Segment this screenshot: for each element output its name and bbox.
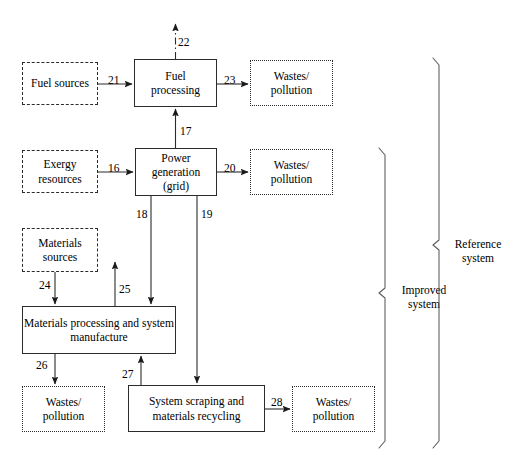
box-materials-processing: Materials processing and systemmanufactu… — [22, 306, 176, 354]
bracket-label-reference-system: Referencesystem — [444, 237, 512, 265]
flow-label-23: 23 — [224, 74, 236, 86]
box-wastes-pollution-mid: Wastes/pollution — [250, 149, 333, 195]
box-fuel-sources: Fuel sources — [22, 62, 98, 105]
flow-label-26: 26 — [36, 359, 48, 371]
flow-label-21: 21 — [108, 74, 120, 86]
bracket-reference-system — [433, 58, 439, 448]
box-wastes-pollution-bottom-right: Wastes/pollution — [292, 386, 375, 432]
flow-label-20: 20 — [224, 162, 236, 174]
box-wastes-pollution-top: Wastes/pollution — [250, 60, 333, 106]
flow-label-16: 16 — [108, 162, 120, 174]
box-fuel-processing: Fuelprocessing — [134, 59, 217, 107]
flow-label-25: 25 — [119, 283, 131, 295]
flow-label-24: 24 — [39, 279, 51, 291]
bracket-label-improved-system: Improvedsystem — [391, 283, 457, 311]
flow-label-28: 28 — [271, 396, 283, 408]
box-system-scraping: System scraping andmaterials recycling — [128, 385, 265, 432]
flow-label-19: 19 — [201, 208, 213, 220]
flow-label-22: 22 — [178, 36, 190, 48]
box-materials-sources: Materialssources — [22, 228, 98, 272]
flow-label-17: 17 — [180, 125, 192, 137]
flow-label-27: 27 — [122, 368, 134, 380]
box-exergy-resources: Exergyresources — [22, 150, 98, 193]
diagram-canvas: Fuel sources Fuelprocessing Wastes/pollu… — [0, 0, 517, 455]
box-power-generation: Powergeneration(grid) — [135, 148, 217, 196]
flow-label-18: 18 — [136, 208, 148, 220]
bracket-improved-system — [379, 148, 385, 448]
box-wastes-pollution-lower-left: Wastes/pollution — [22, 386, 105, 432]
